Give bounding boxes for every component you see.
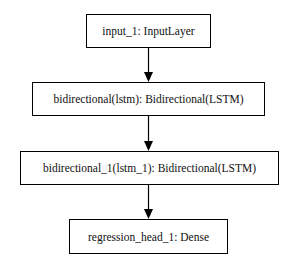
arrowhead-icon [144, 72, 153, 82]
node-input-layer: input_1: InputLayer [86, 14, 211, 48]
node-regression-head-dense: regression_head_1: Dense [69, 219, 228, 254]
arrowhead-icon [144, 141, 153, 151]
edge-bidirectional-1-to-regression-head [144, 185, 153, 219]
edge-input-to-bidirectional [144, 48, 153, 82]
node-bidirectional-lstm: bidirectional(lstm): Bidirectional(LSTM) [32, 82, 265, 116]
node-bidirectional-1-lstm-1: bidirectional_1(lstm_1): Bidirectional(L… [20, 151, 279, 185]
arrowhead-icon [144, 209, 153, 219]
edge-bidirectional-to-bidirectional-1 [144, 116, 153, 151]
